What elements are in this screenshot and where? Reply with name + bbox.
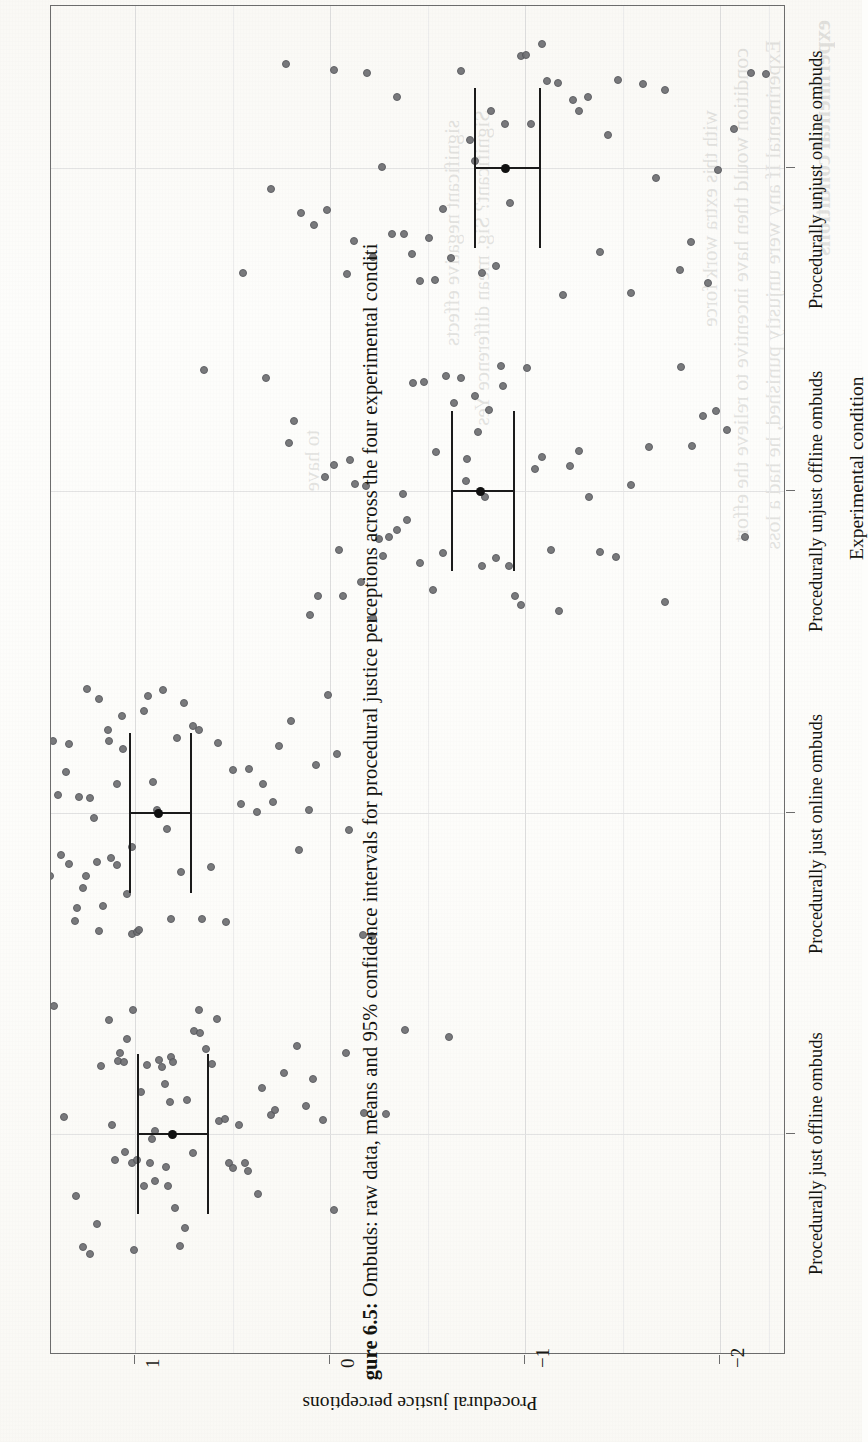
data-point xyxy=(72,1192,80,1200)
data-point xyxy=(382,1110,390,1118)
data-point xyxy=(345,826,353,834)
data-point xyxy=(143,1061,151,1069)
data-point xyxy=(163,825,171,833)
data-point xyxy=(207,863,215,871)
data-point xyxy=(466,136,474,144)
data-point xyxy=(275,742,283,750)
data-point xyxy=(111,1156,119,1164)
data-point xyxy=(244,1167,252,1175)
data-point xyxy=(474,428,482,436)
data-point xyxy=(687,238,695,246)
data-point xyxy=(569,96,577,104)
mean-marker xyxy=(154,809,163,818)
data-point xyxy=(214,739,222,747)
category-axis-tick xyxy=(786,167,795,168)
data-point xyxy=(148,1135,156,1143)
data-point xyxy=(118,712,126,720)
data-point xyxy=(346,456,354,464)
data-point xyxy=(319,1116,327,1124)
data-point xyxy=(310,221,318,229)
data-point xyxy=(162,1163,170,1171)
data-point xyxy=(267,185,275,193)
mean-marker xyxy=(501,164,510,173)
data-point xyxy=(330,461,338,469)
data-point xyxy=(522,51,530,59)
data-point xyxy=(531,465,539,473)
data-point xyxy=(538,40,546,48)
data-point xyxy=(295,846,303,854)
data-point xyxy=(105,1016,113,1024)
data-point xyxy=(429,586,437,594)
data-point xyxy=(478,269,486,277)
data-point xyxy=(554,79,562,87)
data-point xyxy=(432,448,440,456)
data-point xyxy=(416,277,424,285)
data-point xyxy=(614,76,622,84)
ci-whisker-upper xyxy=(513,411,515,571)
data-point xyxy=(239,269,247,277)
data-point xyxy=(65,740,73,748)
data-point xyxy=(99,902,107,910)
data-point xyxy=(75,793,83,801)
value-axis-tick-label: −1 xyxy=(532,1348,554,1368)
data-point xyxy=(723,426,731,434)
data-point xyxy=(439,205,447,213)
data-point xyxy=(457,374,465,382)
ci-whisker-upper xyxy=(539,88,541,248)
data-point xyxy=(222,918,230,926)
data-point xyxy=(258,1084,266,1092)
gridline-category xyxy=(51,168,784,169)
category-axis-title: Experimental condition xyxy=(846,376,868,560)
data-point xyxy=(287,717,295,725)
data-point xyxy=(105,737,113,745)
data-point xyxy=(95,927,103,935)
data-point xyxy=(492,554,500,562)
data-point xyxy=(431,276,439,284)
category-axis-label-3: Procedurally unjust online ombuds xyxy=(806,51,827,309)
data-point xyxy=(393,93,401,101)
data-point xyxy=(229,1164,237,1172)
data-point xyxy=(151,1177,159,1185)
figure-caption-text: Ombuds: raw data, means and 95% confiden… xyxy=(359,244,381,1298)
data-point xyxy=(478,562,486,570)
data-point xyxy=(195,726,203,734)
data-point xyxy=(93,858,101,866)
data-point xyxy=(50,737,57,745)
value-axis-tick xyxy=(719,1355,720,1364)
data-point xyxy=(409,379,417,387)
data-point xyxy=(169,1058,177,1066)
data-point xyxy=(321,473,329,481)
data-point xyxy=(506,199,514,207)
data-point xyxy=(130,1246,138,1254)
plot-panel xyxy=(50,5,785,1354)
data-point xyxy=(305,806,313,814)
value-axis-tick xyxy=(134,1355,135,1364)
data-point xyxy=(575,107,583,115)
data-point xyxy=(612,553,620,561)
data-point xyxy=(330,1206,338,1214)
data-point xyxy=(221,1115,229,1123)
gridline-value-minor xyxy=(623,6,624,1353)
data-point xyxy=(181,1224,189,1232)
data-point xyxy=(135,926,143,934)
data-point xyxy=(95,695,103,703)
data-point xyxy=(177,868,185,876)
value-axis-tick-label: −2 xyxy=(727,1348,749,1368)
data-point xyxy=(306,611,314,619)
data-point xyxy=(416,559,424,567)
data-point xyxy=(195,1006,203,1014)
data-point xyxy=(712,407,720,415)
data-point xyxy=(445,1033,453,1041)
data-point xyxy=(269,798,277,806)
data-point xyxy=(57,851,65,859)
data-point xyxy=(596,248,604,256)
data-point xyxy=(90,814,98,822)
data-point xyxy=(676,266,684,274)
data-point xyxy=(523,364,531,372)
gridline-category xyxy=(51,491,784,492)
data-point xyxy=(176,1242,184,1250)
data-point xyxy=(408,250,416,258)
category-axis-tick xyxy=(786,1133,795,1134)
data-point xyxy=(149,778,157,786)
data-point xyxy=(120,1058,128,1066)
